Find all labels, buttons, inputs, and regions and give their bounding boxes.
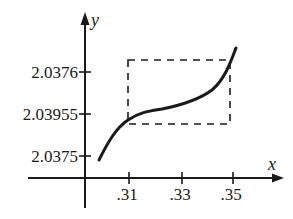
y-tick-label: 2.0375: [31, 147, 78, 166]
y-axis-label: y: [89, 10, 99, 30]
dashed-window-box: [128, 60, 230, 124]
x-tick-label: .31: [116, 185, 137, 204]
function-curve: [99, 48, 236, 160]
y-axis-arrow-icon: [81, 12, 90, 25]
function-graph: y x 2.0376 2.03955 2.0375 .31 .33 .35: [0, 0, 293, 219]
x-axis-arrow-icon: [272, 174, 284, 183]
y-tick-label: 2.0376: [31, 63, 78, 82]
x-tick-label: .35: [220, 185, 241, 204]
y-tick-label: 2.03955: [23, 105, 78, 124]
x-axis-label: x: [267, 154, 276, 174]
x-tick-label: .33: [169, 185, 190, 204]
